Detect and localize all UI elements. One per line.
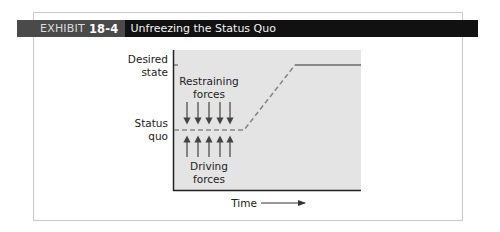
status-line1: Status [110, 117, 168, 130]
desired-line1: Desired [110, 53, 168, 66]
desired-line2: state [110, 66, 168, 79]
status-line2: quo [110, 130, 168, 143]
restraining-line2: forces [173, 88, 245, 101]
restraining-forces-label: Restraining forces [173, 75, 245, 101]
restraining-line1: Restraining [173, 75, 245, 88]
desired-state-label: Desired state [110, 53, 168, 79]
status-quo-label: Status quo [110, 117, 168, 143]
driving-forces-label: Driving forces [173, 160, 245, 186]
time-label: Time [228, 197, 260, 210]
driving-line2: forces [173, 173, 245, 186]
driving-line1: Driving [173, 160, 245, 173]
